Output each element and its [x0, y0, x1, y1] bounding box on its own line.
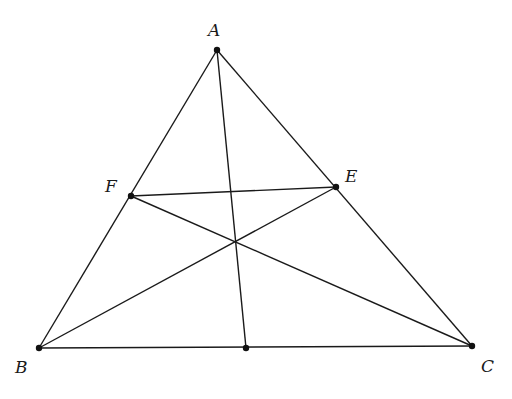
label-c: C: [481, 356, 494, 376]
triangle-diagram: A B C E F: [0, 0, 512, 399]
point-c: [469, 343, 475, 349]
segment-ac: [217, 50, 472, 346]
segment-be: [39, 187, 336, 348]
point-f: [128, 193, 134, 199]
point-e: [333, 184, 339, 190]
label-a: A: [206, 20, 220, 40]
segment-ad: [217, 50, 246, 348]
segments: [39, 50, 472, 348]
segment-fe: [131, 187, 336, 196]
label-b: B: [14, 357, 28, 377]
segment-bc: [39, 346, 472, 348]
vertices: [36, 47, 475, 351]
segment-ab: [39, 50, 217, 348]
label-f: F: [104, 176, 118, 196]
point-a: [214, 47, 220, 53]
point-d: [243, 345, 249, 351]
label-e: E: [344, 166, 358, 186]
point-b: [36, 345, 42, 351]
